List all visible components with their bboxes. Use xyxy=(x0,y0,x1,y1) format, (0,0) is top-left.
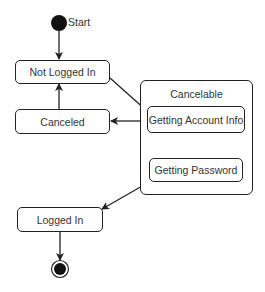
state-getting-password: Getting Password xyxy=(149,158,243,182)
composite-state-cancelable-label: Cancelable xyxy=(141,88,252,100)
state-getting-account-info: Getting Account Info xyxy=(147,106,245,133)
state-canceled-label: Canceled xyxy=(40,116,84,128)
final-state-inner-icon xyxy=(54,263,66,275)
state-getting-account-info-label: Getting Account Info xyxy=(149,114,244,126)
state-not-logged-in: Not Logged In xyxy=(15,60,110,84)
start-label: Start xyxy=(68,16,90,28)
state-logged-in-label: Logged In xyxy=(37,214,84,226)
state-getting-password-label: Getting Password xyxy=(155,164,238,176)
initial-state-icon xyxy=(51,15,67,31)
state-logged-in: Logged In xyxy=(17,207,103,232)
state-not-logged-in-label: Not Logged In xyxy=(30,66,96,78)
state-canceled: Canceled xyxy=(15,109,110,134)
